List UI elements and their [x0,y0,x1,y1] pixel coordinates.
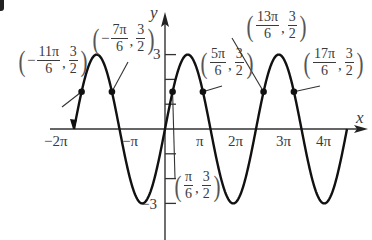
y-fraction: 32 [235,47,244,78]
y-fraction: 32 [136,23,145,54]
point-label-pi-6: ( π6 , 32 ) [173,170,222,201]
point-marker [78,89,85,96]
point-label-13pi-6: ( 13π6 , 32 ) [245,10,308,41]
sine-graph [0,0,372,240]
y-axis-label: y [150,3,158,23]
point-label-17pi-6: ( 17π6 , 32 ) [302,47,365,78]
denominator: 6 [215,63,222,78]
x-fraction: 17π6 [313,47,336,78]
x-tick-neg-pi: −π [122,134,138,149]
open-paren: ( [304,48,311,78]
close-paren: ) [213,171,220,201]
y-fraction: 32 [69,45,78,76]
denominator: 6 [185,186,192,201]
comma: , [338,57,342,74]
y-fraction: 32 [288,10,297,41]
denominator: 6 [321,63,328,78]
x-tick-3pi: 3π [276,134,291,149]
close-paren: ) [246,48,253,78]
x-tick-2pi: 2π [228,134,243,149]
close-paren: ) [356,48,363,78]
denominator: 2 [137,39,144,54]
numerator: 3 [235,47,244,63]
close-paren: ) [299,11,306,41]
x-fraction: 5π6 [210,47,226,78]
x-axis-label: x [356,108,364,128]
comma: , [130,33,134,50]
numerator: 5π [210,47,226,63]
numerator: 3 [136,23,145,39]
x-fraction: 7π6 [111,23,127,54]
x-tick-pi: π [196,134,204,149]
denominator: 6 [45,61,52,76]
close-paren: ) [148,24,155,54]
close-paren: ) [80,46,87,76]
open-paren: ( [201,48,208,78]
numerator: π [184,170,193,186]
numerator: 3 [345,47,354,63]
numerator: 11π [37,45,60,61]
numerator: 13π [256,10,279,26]
numerator: 3 [69,45,78,61]
denominator: 2 [70,61,77,76]
leader-line [112,62,128,92]
open-paren: ( [175,171,182,201]
point-marker [200,89,207,96]
sign: − [101,30,109,47]
x-tick-neg-2pi: −2π [44,134,68,149]
x-tick-4pi: 4π [316,134,331,149]
open-paren: ( [247,11,254,41]
denominator: 6 [116,39,123,54]
numerator: 3 [288,10,297,26]
point-label-neg-11pi-6: ( − 11π6 , 32 ) [17,45,89,76]
numerator: 7π [111,23,127,39]
numerator: 17π [313,47,336,63]
x-fraction: 11π6 [37,45,60,76]
denominator: 2 [203,186,210,201]
y-fraction: 32 [202,170,211,201]
point-marker [109,89,116,96]
y-fraction: 32 [345,47,354,78]
open-paren: ( [93,24,100,54]
point-label-neg-7pi-6: ( − 7π6 , 32 ) [91,23,156,54]
comma: , [62,55,66,72]
comma: , [228,57,232,74]
denominator: 2 [289,26,296,41]
denominator: 2 [236,63,243,78]
x-fraction: 13π6 [256,10,279,41]
comma: , [281,20,285,37]
point-label-5pi-6: ( 5π6 , 32 ) [199,47,255,78]
leader-line [294,86,320,92]
y-tick-neg-3: −3 [141,197,157,212]
point-marker [260,89,267,96]
x-fraction: π6 [184,170,193,201]
point-marker [169,89,176,96]
sign: − [27,52,35,69]
point-marker [291,89,298,96]
denominator: 2 [346,63,353,78]
denominator: 6 [264,26,271,41]
numerator: 3 [202,170,211,186]
marked-points [78,89,297,96]
open-paren: ( [19,46,26,76]
comma: , [195,180,199,197]
